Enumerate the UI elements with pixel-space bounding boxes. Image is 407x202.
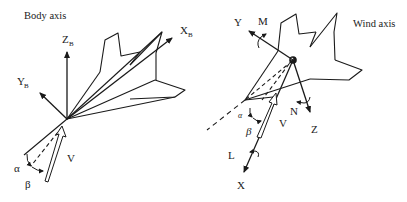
wind-y-label: Y: [234, 16, 242, 28]
wind-x-label: X: [237, 179, 245, 191]
moment-n-arrow: [297, 97, 310, 103]
wind-velocity-label: V: [279, 117, 287, 129]
wind-axis-panel: Wind axis: [207, 13, 395, 191]
wind-z-label: Z: [311, 123, 318, 135]
svg-text:B: B: [69, 40, 74, 48]
body-axis-panel: Body axis Z B Y B X B: [14, 10, 193, 190]
wind-axis-title: Wind axis: [353, 18, 395, 29]
svg-text:B: B: [188, 31, 193, 39]
wind-beta-label: β: [245, 125, 252, 137]
wind-y-axis: [249, 31, 293, 60]
body-beta-label: β: [25, 178, 31, 190]
body-x-label: X: [180, 24, 188, 36]
wind-m-label: M: [258, 15, 268, 27]
wind-alpha-label: α: [238, 111, 243, 120]
wind-angle-arcs: [250, 108, 261, 121]
wind-n-label: N: [290, 105, 298, 117]
body-alpha-label: α: [14, 162, 20, 174]
body-velocity-label: V: [67, 152, 75, 164]
body-z-label: Z: [62, 33, 69, 45]
body-axes: [40, 38, 172, 119]
wind-velocity-vector: [257, 93, 277, 138]
body-axis-title: Body axis: [24, 10, 66, 21]
axis-systems-diagram: Body axis Z B Y B X B: [0, 0, 407, 202]
body-y-axis: [40, 93, 67, 119]
body-angle-arcs: [27, 154, 43, 171]
svg-text:B: B: [24, 82, 29, 90]
wind-l-label: L: [228, 149, 235, 161]
